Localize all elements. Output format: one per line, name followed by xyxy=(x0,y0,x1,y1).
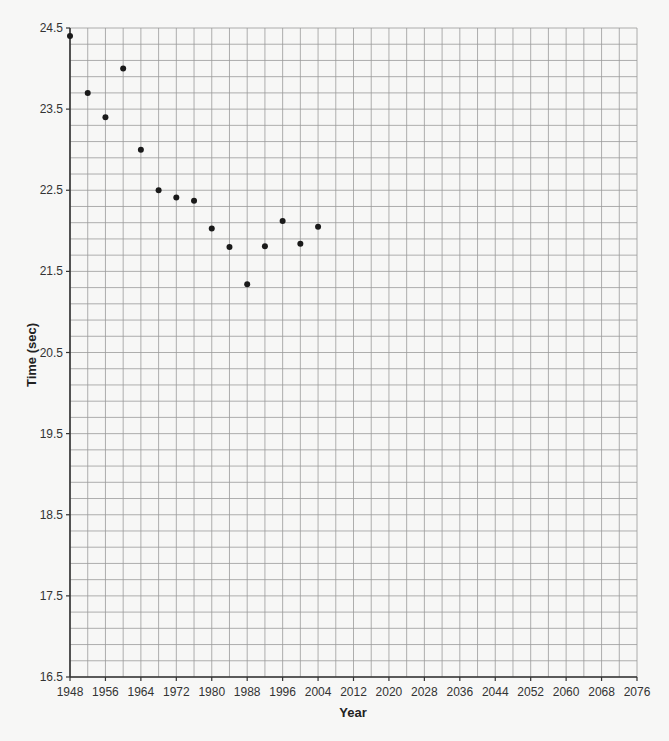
data-point xyxy=(262,243,268,249)
y-tick-label: 21.5 xyxy=(40,264,64,278)
data-point xyxy=(85,90,91,96)
data-point xyxy=(191,198,197,204)
x-tick-label: 2076 xyxy=(624,685,651,699)
data-point xyxy=(226,244,232,250)
data-point xyxy=(297,241,303,247)
x-tick-label: 1972 xyxy=(163,685,190,699)
x-tick-label: 1964 xyxy=(128,685,155,699)
data-point xyxy=(138,147,144,153)
y-tick-label: 16.5 xyxy=(40,670,64,684)
x-tick-label: 1980 xyxy=(198,685,225,699)
scatter-chart: 1948195619641972198019881996200420122020… xyxy=(0,0,669,741)
y-tick-label: 19.5 xyxy=(40,427,64,441)
x-tick-label: 2044 xyxy=(482,685,509,699)
x-tick-label: 1948 xyxy=(57,685,84,699)
x-tick-label: 1956 xyxy=(92,685,119,699)
data-point xyxy=(67,33,73,39)
y-tick-label: 23.5 xyxy=(40,102,64,116)
x-tick-label: 2004 xyxy=(305,685,332,699)
y-tick-label: 18.5 xyxy=(40,508,64,522)
x-tick-label: 2020 xyxy=(376,685,403,699)
x-tick-label: 2036 xyxy=(446,685,473,699)
data-point xyxy=(156,187,162,193)
y-tick-label: 17.5 xyxy=(40,589,64,603)
data-point xyxy=(244,281,250,287)
y-axis-title: Time (sec) xyxy=(24,323,39,387)
x-axis-title: Year xyxy=(339,705,366,720)
x-axis-ticks: 1948195619641972198019881996200420122020… xyxy=(57,677,651,699)
x-tick-label: 2068 xyxy=(588,685,615,699)
y-axis-ticks: 16.517.518.519.520.521.522.523.524.5 xyxy=(40,21,70,684)
data-point xyxy=(173,195,179,201)
data-point xyxy=(120,66,126,72)
x-tick-label: 2052 xyxy=(517,685,544,699)
x-tick-label: 1988 xyxy=(234,685,261,699)
data-point xyxy=(102,114,108,120)
x-tick-label: 2012 xyxy=(340,685,367,699)
y-tick-label: 20.5 xyxy=(40,346,64,360)
grid-lines xyxy=(70,28,637,677)
data-point xyxy=(315,224,321,230)
y-tick-label: 22.5 xyxy=(40,183,64,197)
x-tick-label: 2060 xyxy=(553,685,580,699)
x-tick-label: 1996 xyxy=(269,685,296,699)
data-point xyxy=(280,218,286,224)
y-tick-label: 24.5 xyxy=(40,21,64,35)
data-point xyxy=(209,225,215,231)
x-tick-label: 2028 xyxy=(411,685,438,699)
